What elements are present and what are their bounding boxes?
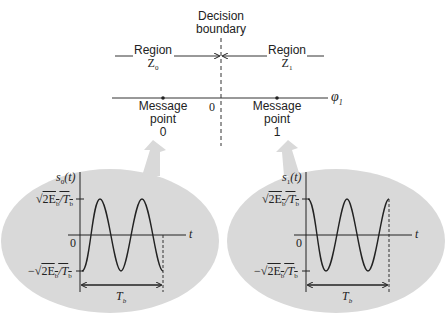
s0-top-radicand: 2Eb/Tb xyxy=(43,192,73,206)
mp0-line3: 0 xyxy=(138,126,188,139)
s0-xlabel: t xyxy=(189,228,192,241)
region-z0-label: Region Z0 xyxy=(133,44,173,75)
s0-origin: 0 xyxy=(70,237,76,250)
region-z0-symbol: Z0 xyxy=(133,57,173,75)
message-point-1-label: Message point 1 xyxy=(252,100,302,139)
origin-label: 0 xyxy=(209,101,215,114)
s1-top-amplitude: √2Eb/Tb xyxy=(262,193,299,211)
s0-ylabel: s0(t) xyxy=(56,171,76,189)
decision-label-line2: boundary xyxy=(196,23,246,36)
region-z1-symbol: Z1 xyxy=(267,57,307,75)
s1-bottom-amplitude: −√2Eb/Tb xyxy=(254,265,298,283)
s1-xlabel: t xyxy=(415,228,418,241)
phi1-label: φ1 xyxy=(331,90,343,109)
s1-ylabel: s1(t) xyxy=(282,171,302,189)
mp1-line3: 1 xyxy=(252,126,302,139)
message-point-0-label: Message point 0 xyxy=(138,100,188,139)
region-z1-label: Region Z1 xyxy=(267,44,307,75)
s0-top-amplitude: √2Eb/Tb xyxy=(36,193,73,211)
bubble-left xyxy=(1,140,219,313)
bubble-right xyxy=(227,140,445,313)
s1-duration: Tb xyxy=(342,290,352,308)
s0-duration: Tb xyxy=(116,290,126,308)
decision-boundary-label: Decision boundary xyxy=(196,10,246,36)
s0-bottom-amplitude: −√2Eb/Tb xyxy=(28,265,72,283)
s1-origin: 0 xyxy=(296,237,302,250)
